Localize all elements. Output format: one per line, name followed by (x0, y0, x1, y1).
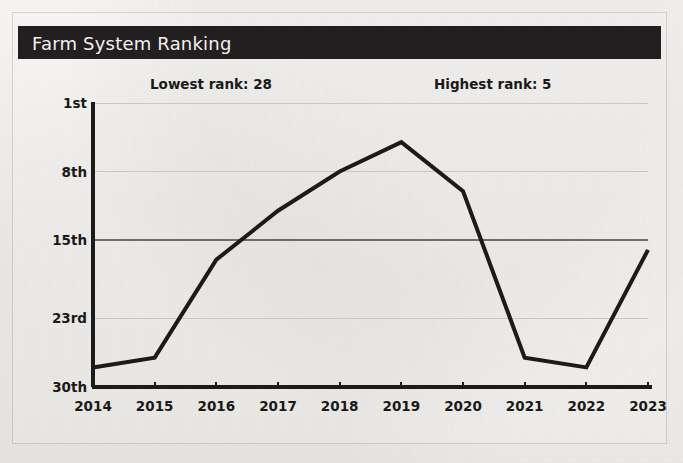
y-axis-label-15: 15th (0, 232, 87, 248)
x-axis-label-2021: 2021 (506, 398, 544, 414)
x-axis-label-2014: 2014 (74, 398, 112, 414)
x-axis-label-2015: 2015 (136, 398, 174, 414)
x-axis-label-2016: 2016 (198, 398, 236, 414)
chart-title-bar: Farm System Ranking (18, 26, 661, 59)
y-axis-label-8: 8th (0, 164, 87, 180)
x-axis-label-2017: 2017 (259, 398, 297, 414)
y-axis-label-23: 23rd (0, 310, 87, 326)
y-axis-label-1: 1st (0, 95, 87, 111)
annotation-highest-rank: Highest rank: 5 (434, 76, 551, 92)
x-axis-label-2022: 2022 (568, 398, 606, 414)
annotation-lowest-rank: Lowest rank: 28 (150, 76, 272, 92)
page-title: Farm System Ranking (32, 32, 232, 53)
x-axis-label-2020: 2020 (444, 398, 482, 414)
x-axis-label-2019: 2019 (383, 398, 421, 414)
x-axis-label-2023: 2023 (629, 398, 667, 414)
chart-card (12, 12, 667, 444)
y-axis-label-30: 30th (0, 379, 87, 395)
x-axis-label-2018: 2018 (321, 398, 359, 414)
